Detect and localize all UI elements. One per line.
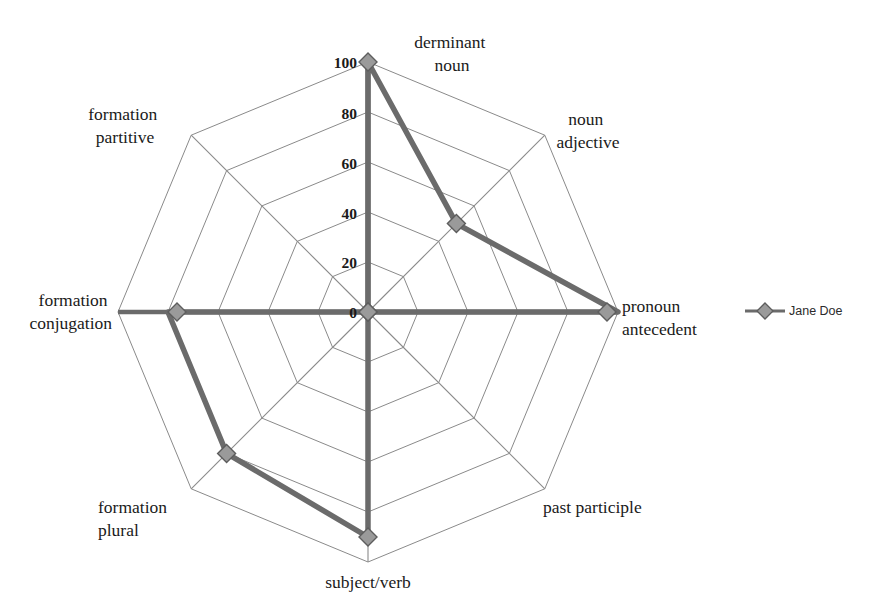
- axis-label-pronoun-antecedent: pronoun antecedent: [622, 296, 697, 339]
- axis-label-formation-partitive-line1: formation: [88, 104, 157, 124]
- legend-label-jane-doe: Jane Doe: [789, 304, 843, 318]
- axis-label-derminant-noun-line1: derminant: [414, 32, 485, 52]
- axis-label-formation-conjugation-line2: conjugation: [29, 313, 112, 333]
- axis-label-formation-plural-line2: plural: [98, 520, 139, 540]
- axis-label-pronoun-antecedent-line1: pronoun: [622, 296, 681, 316]
- tick-label-100: 100: [334, 54, 358, 71]
- axis-label-past-participle: past participle: [543, 497, 642, 517]
- data-polygon: [168, 62, 618, 537]
- axis-label-formation-plural: formation plural: [98, 497, 171, 540]
- axis-label-pronoun-antecedent-line2: antecedent: [622, 319, 697, 339]
- axis-label-derminant-noun-line2: noun: [435, 55, 470, 75]
- data-markers: [168, 53, 616, 546]
- tick-label-80: 80: [342, 105, 358, 122]
- axis-label-formation-conjugation: formation conjugation: [29, 290, 112, 333]
- axis-label-noun-adjective-line1: noun: [568, 109, 603, 129]
- radar-chart-figure: 100 80 60 40 20 0 derminant noun noun ad…: [0, 0, 873, 612]
- marker-pronoun-antecedent: [598, 303, 616, 321]
- chart-legend: Jane Doe: [745, 303, 843, 319]
- axis-label-derminant-noun: derminant noun: [414, 32, 489, 75]
- tick-label-60: 60: [342, 155, 358, 172]
- axis-label-formation-partitive: formation partitive: [88, 104, 161, 147]
- tick-label-40: 40: [342, 205, 358, 222]
- axis-label-formation-conjugation-line1: formation: [39, 290, 108, 310]
- axis-label-noun-adjective-line2: adjective: [556, 132, 619, 152]
- axis-label-formation-plural-line1: formation: [98, 497, 167, 517]
- axis-label-noun-adjective: noun adjective: [556, 109, 619, 152]
- axis-label-subject-verb: subject/verb: [325, 572, 411, 592]
- axis-label-formation-partitive-line2: partitive: [96, 127, 155, 147]
- radar-chart-svg: 100 80 60 40 20 0 derminant noun noun ad…: [0, 0, 873, 612]
- tick-label-20: 20: [342, 254, 358, 271]
- data-series-jane-doe: [168, 62, 618, 537]
- tick-label-0: 0: [349, 304, 357, 321]
- legend-swatch-marker-jane-doe: [757, 303, 773, 319]
